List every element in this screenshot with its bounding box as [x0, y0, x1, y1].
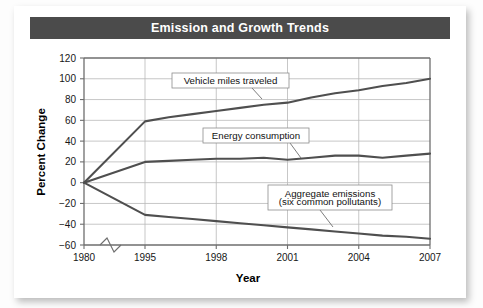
annotation-label: Energy consumption [212, 130, 300, 141]
x-tick-label: 1998 [205, 252, 228, 263]
annotation-leader-line [290, 143, 301, 158]
y-axis-ticks-group: 120100806040200−20−40−60 [59, 53, 84, 251]
series-line [84, 154, 430, 183]
y-tick-label: 60 [65, 115, 77, 126]
screenshot-root: Emission and Growth Trends 1201008060402… [0, 0, 483, 308]
x-tick-label: 2004 [348, 252, 371, 263]
annotation-label: Vehicle miles traveled [184, 75, 278, 86]
x-tick-label: 2001 [276, 252, 299, 263]
y-tick-label: 20 [65, 156, 77, 167]
y-tick-label: 100 [59, 73, 76, 84]
annotation-label: (six common pollutants) [279, 196, 381, 207]
y-axis-title: Percent Change [35, 108, 47, 196]
y-tick-label: −60 [59, 240, 76, 251]
annotation-leader-line [252, 88, 262, 99]
y-tick-label: 80 [65, 94, 77, 105]
y-tick-label: 0 [70, 177, 76, 188]
x-tick-label: 1995 [134, 252, 157, 263]
y-tick-label: 120 [59, 53, 76, 64]
y-tick-label: −40 [59, 219, 76, 230]
line-chart-svg: 120100806040200−20−40−60 198019951998200… [0, 0, 483, 308]
x-axis-title: Year [236, 272, 261, 284]
chart-canvas: 120100806040200−20−40−60 198019951998200… [0, 0, 483, 308]
y-tick-label: −20 [59, 198, 76, 209]
x-tick-label: 1980 [73, 252, 96, 263]
x-axis-ticks-group: 198019951998200120042007 [73, 245, 442, 263]
series-lines-group [84, 79, 430, 239]
y-tick-label: 40 [65, 136, 77, 147]
x-tick-label: 2007 [419, 252, 442, 263]
